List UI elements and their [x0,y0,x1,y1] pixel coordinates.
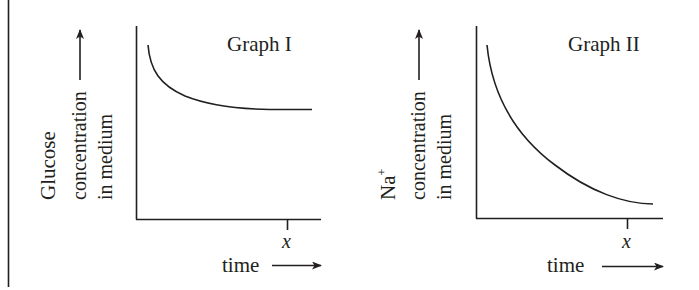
graph-2-y-label-line3-group: in medium [433,113,455,200]
graph-2-y-label-line2-group: concentration [407,30,429,200]
graph-2-y-label-line1: Na+ [375,169,400,201]
graph-2: Na+ concentration in medium Graph II x t… [375,26,663,277]
graph-1-y-label-line1: Glucose [36,131,60,200]
graph-2-x-marker: x [621,230,631,252]
graph-1-y-label-line3-group: in medium [94,113,116,200]
figure: Glucose concentration in medium Graph I … [0,0,699,290]
graph-1-x-label: time [222,253,259,277]
graph-2-y-label-line2: concentration [407,91,429,200]
graph-1-title: Graph I [227,32,292,56]
graph-1-y-label: Glucose [36,131,60,200]
graph-2-curve [487,45,653,204]
graph-1-y-label-line2: concentration [68,91,90,200]
graph-2-title: Graph II [568,32,640,56]
graph-1: Glucose concentration in medium Graph I … [36,26,321,277]
graph-2-y-label-na: Na [376,175,400,200]
graph-1-y-label-line3: in medium [94,113,116,200]
graph-2-x-label: time [547,253,584,277]
graph-2-y-label-line1-group: Na+ [375,169,400,201]
graph-1-x-marker: x [281,230,291,252]
graph-2-y-label-line3: in medium [433,113,455,200]
graph-1-y-label-line2-group: concentration [68,30,90,200]
graph-2-y-label-plus: + [375,169,389,176]
